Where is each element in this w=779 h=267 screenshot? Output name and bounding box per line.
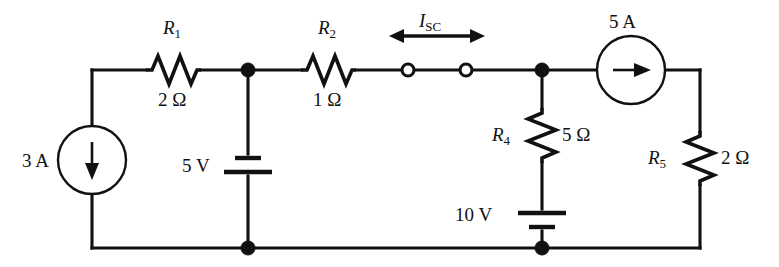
label-source-3a: 3 A [22, 151, 49, 170]
junction-node-b-top [535, 63, 549, 77]
label-r4-name-text: R [492, 124, 504, 145]
open-terminal-right [460, 64, 472, 76]
label-r5-name-text: R [648, 147, 660, 168]
label-r2-value: 1 Ω [313, 90, 341, 109]
label-source-5a: 5 A [609, 12, 636, 31]
label-r1-name: R1 [163, 18, 181, 37]
resistor-r5-symbol [686, 131, 714, 186]
junction-node-b-bottom [535, 241, 549, 255]
label-r1-value: 2 Ω [158, 90, 186, 109]
label-isc-subscript: SC [425, 19, 441, 34]
label-r1-name-text: R [163, 17, 175, 38]
label-battery-10v: 10 V [455, 205, 492, 224]
resistor-r4-symbol [528, 108, 556, 163]
label-r4-subscript: 4 [504, 133, 511, 148]
resistor-r1-symbol [146, 56, 201, 84]
circuit-schematic-canvas [0, 0, 779, 267]
label-r2-name-text: R [318, 17, 330, 38]
label-r2-name: R2 [318, 18, 336, 37]
label-r5-name: R5 [648, 148, 666, 167]
isc-arrow-head-right [470, 29, 485, 43]
open-terminal-left [402, 64, 414, 76]
label-r1-subscript: 1 [175, 26, 182, 41]
circuit-diagram-figure: R1 2 Ω R2 1 Ω ISC 5 A 3 A 5 V R4 5 Ω 10 … [0, 0, 779, 267]
label-battery-5v: 5 V [182, 156, 210, 175]
junction-node-a-top [241, 63, 255, 77]
label-isc: ISC [419, 11, 441, 30]
resistor-r2-symbol [301, 56, 356, 84]
junction-node-a-bottom [241, 241, 255, 255]
label-r5-subscript: 5 [660, 156, 667, 171]
label-r5-value: 2 Ω [721, 148, 749, 167]
isc-arrow-head-left [389, 29, 404, 43]
label-r4-value: 5 Ω [562, 125, 590, 144]
label-r4-name: R4 [492, 125, 510, 144]
label-r2-subscript: 2 [330, 26, 337, 41]
